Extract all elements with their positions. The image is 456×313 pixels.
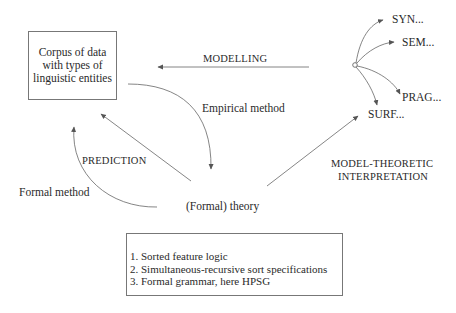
theory-components-box: 1. Sorted feature logic 2. Simultaneous-…: [126, 233, 343, 296]
corpus-line-1: Corpus of data: [29, 46, 116, 59]
branch-prag-label: PRAG...: [402, 91, 441, 104]
corpus-line-2: with types of: [29, 59, 116, 72]
prediction-arrow: [101, 114, 191, 181]
modelling-label: MODELLING: [203, 52, 267, 65]
branch-syn-arrow: [356, 20, 383, 63]
empirical-method-label: Empirical method: [202, 102, 285, 115]
corpus-box: Corpus of data with types of linguistic …: [28, 31, 117, 100]
theory-component-item: 1. Sorted feature logic: [130, 250, 342, 263]
model-node: [353, 63, 358, 68]
branch-surf-label: SURF...: [368, 108, 404, 121]
corpus-line-3: linguistic entities: [29, 72, 116, 85]
model-theoretic-label-line-1: MODEL-THEORETIC: [331, 157, 433, 170]
prediction-label: PREDICTION: [82, 154, 146, 167]
theory-node-label: (Formal) theory: [186, 200, 259, 213]
branch-sem-arrow: [357, 42, 394, 63]
model-theoretic-label-line-2: INTERPRETATION: [338, 170, 428, 183]
branch-sem-label: SEM...: [402, 36, 434, 49]
theory-component-item: 2. Simultaneous-recursive sort specifica…: [130, 263, 342, 276]
branch-surf-arrow: [356, 67, 377, 105]
theory-component-item: 3. Formal grammar, here HPSG: [130, 275, 342, 288]
formal-method-label: Formal method: [19, 186, 90, 199]
branch-syn-label: SYN...: [392, 13, 424, 26]
branch-prag-arrow: [357, 66, 400, 94]
